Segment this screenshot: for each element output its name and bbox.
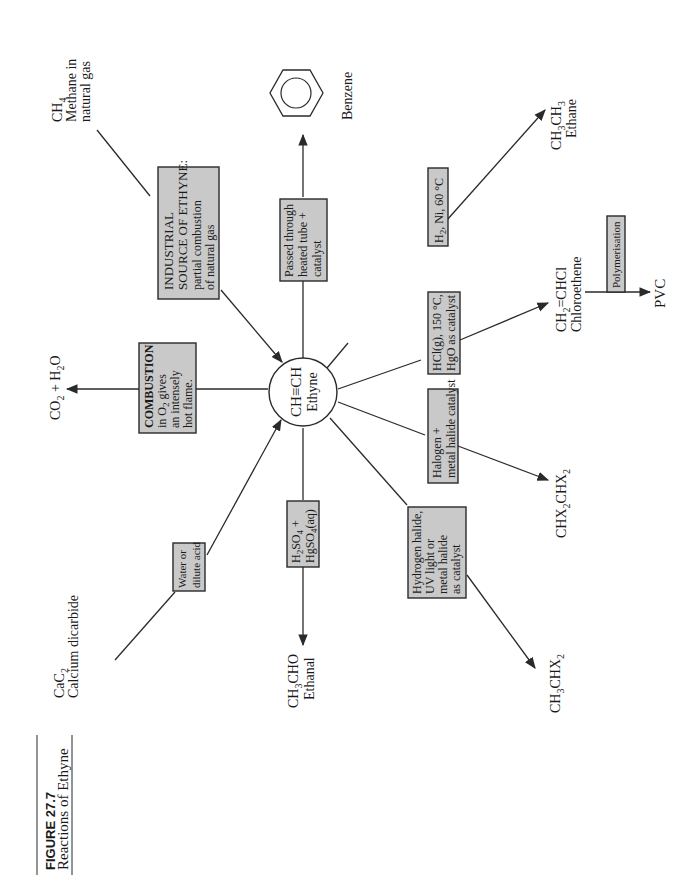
ethyne-name: Ethyne xyxy=(305,372,320,412)
svg-text:heated tube +: heated tube + xyxy=(296,212,310,277)
svg-text:catalyst: catalyst xyxy=(310,240,324,277)
methane-label: CH4 Methane in natural gas xyxy=(50,59,93,122)
hydrogen-halide-arrow xyxy=(467,575,535,668)
svg-text:HCl(g), 150 °C,: HCl(g), 150 °C, xyxy=(430,294,444,371)
ethane-label: CH3CH3 Ethane xyxy=(549,99,579,150)
figure-caption: FIGURE 27.7 Reactions of Ethyne xyxy=(37,735,72,875)
ethyne-node: CH≡CH Ethyne xyxy=(269,358,337,426)
halogen-line-lower xyxy=(338,402,425,435)
svg-text:Hydrogen halide,: Hydrogen halide, xyxy=(410,511,424,594)
chloroethene-label: CH2=CHCl Chloroethene xyxy=(554,257,584,332)
combustion-box: COMBUSTION in O2 gives an intensely hot … xyxy=(139,343,196,433)
ethane-line-lower xyxy=(327,343,348,368)
benzene-ring-icon xyxy=(270,70,323,116)
ethane-arrow xyxy=(447,110,545,220)
benzene-label: Benzene xyxy=(340,72,355,120)
svg-text:Methane in: Methane in xyxy=(64,59,79,122)
svg-text:Water or: Water or xyxy=(176,550,188,588)
chx2chx2-label: CHX2CHX2 xyxy=(554,469,572,538)
svg-text:partial combustion: partial combustion xyxy=(190,200,204,290)
carbide-line-lower xyxy=(115,592,175,660)
hydrogenation-box: H2, Ni, 60 °C xyxy=(428,168,448,246)
industrial-arrow xyxy=(221,290,282,362)
hydrogen-halide-line-lower xyxy=(330,418,407,505)
halogen-arrow xyxy=(458,446,548,480)
water-box: Water or dilute acid xyxy=(173,541,205,591)
calcium-dicarbide-label: CaC2 Calcium dicarbide xyxy=(52,595,81,698)
svg-text:metal halide catalyst: metal halide catalyst xyxy=(444,379,458,478)
svg-text:INDUSTRIAL: INDUSTRIAL xyxy=(161,212,176,290)
benzene-structure: Benzene xyxy=(270,70,355,120)
svg-text:HgO as catalyst: HgO as catalyst xyxy=(444,294,458,371)
reactions-of-ethyne-diagram: FIGURE 27.7 Reactions of Ethyne xyxy=(0,0,691,894)
svg-text:hot flame.: hot flame. xyxy=(181,379,195,428)
pvc-label: PVC xyxy=(652,279,668,308)
industrial-source-box: INDUSTRIAL SOURCE OF ETHYNE: partial com… xyxy=(158,160,219,299)
svg-text:metal halide: metal halide xyxy=(436,535,450,594)
svg-text:as catalyst: as catalyst xyxy=(449,544,463,594)
svg-text:COMBUSTION: COMBUSTION xyxy=(142,344,156,428)
heated-tube-box: Passed through heated tube + catalyst xyxy=(280,199,327,281)
ethanal-label: CH3CHO Ethanal xyxy=(286,654,317,708)
svg-text:SOURCE OF ETHYNE:: SOURCE OF ETHYNE: xyxy=(175,160,190,290)
figure-title: Reactions of Ethyne xyxy=(55,748,71,870)
svg-text:Halogen +: Halogen + xyxy=(430,427,444,478)
ethyne-formula: CH≡CH xyxy=(288,367,304,417)
svg-text:an intensely: an intensely xyxy=(168,370,182,428)
svg-text:UV light or: UV light or xyxy=(423,539,437,594)
polymerisation-box: Polymerisation xyxy=(607,216,625,292)
svg-text:dilute acid: dilute acid xyxy=(190,541,202,588)
methane-line xyxy=(97,130,150,196)
svg-text:Calcium dicarbide: Calcium dicarbide xyxy=(66,595,81,698)
svg-text:Ethane: Ethane xyxy=(564,99,579,138)
svg-text:Polymerisation: Polymerisation xyxy=(610,221,622,288)
svg-text:HgSO4(aq): HgSO4(aq) xyxy=(303,509,319,563)
hydration-box: H2SO4 + HgSO4(aq) xyxy=(287,501,319,567)
hydrogen-halide-box: Hydrogen halide, UV light or metal halid… xyxy=(408,507,466,598)
svg-text:Ethanal: Ethanal xyxy=(302,657,317,700)
svg-text:of natural gas: of natural gas xyxy=(203,224,217,290)
chloroethene-line-lower xyxy=(338,360,421,389)
svg-text:natural gas: natural gas xyxy=(78,61,93,122)
co2-h2o-label: CO2 + H2O xyxy=(48,355,66,420)
carbide-arrow xyxy=(207,420,281,555)
chloroethene-arrow xyxy=(460,303,548,340)
svg-text:Chloroethene: Chloroethene xyxy=(569,257,584,332)
svg-text:Passed through: Passed through xyxy=(282,204,296,277)
hcl-box: HCl(g), 150 °C, HgO as catalyst xyxy=(428,292,460,374)
halogen-box: Halogen + metal halide catalyst xyxy=(428,379,458,483)
ch3chx2-label: CH3CHX2 xyxy=(548,654,566,713)
